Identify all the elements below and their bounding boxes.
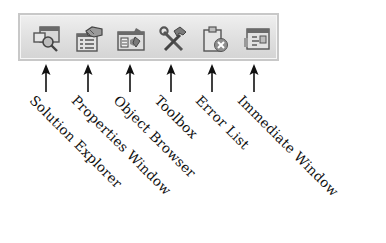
arrow-toolbox xyxy=(166,64,176,92)
solution-explorer-button[interactable] xyxy=(32,25,62,53)
arrow-solution-explorer xyxy=(41,64,51,92)
arrow-properties-window xyxy=(83,64,93,92)
properties-window-icon xyxy=(74,25,104,53)
arrow-up-icon xyxy=(125,64,135,92)
toolbar xyxy=(18,13,279,61)
object-browser-button[interactable] xyxy=(116,25,146,53)
arrow-error-list xyxy=(207,64,217,92)
properties-window-button[interactable] xyxy=(74,25,104,53)
immediate-window-button[interactable] xyxy=(242,25,272,53)
label-immediate-window: Immediate Window xyxy=(235,92,342,199)
error-list-icon xyxy=(200,25,230,53)
arrow-object-browser xyxy=(125,64,135,92)
arrow-up-icon xyxy=(207,64,217,92)
arrow-immediate-window xyxy=(249,64,259,92)
arrow-up-icon xyxy=(41,64,51,92)
arrow-up-icon xyxy=(166,64,176,92)
solution-explorer-icon xyxy=(32,25,62,53)
arrow-up-icon xyxy=(249,64,259,92)
error-list-button[interactable] xyxy=(200,25,230,53)
object-browser-icon xyxy=(116,25,146,53)
arrow-up-icon xyxy=(83,64,93,92)
toolbox-icon xyxy=(158,25,188,53)
toolbox-button[interactable] xyxy=(158,25,188,53)
immediate-window-icon xyxy=(242,25,272,53)
